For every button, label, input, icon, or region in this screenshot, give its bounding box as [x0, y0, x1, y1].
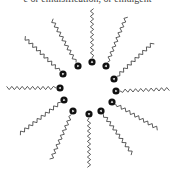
- micelle-diagram: [0, 0, 175, 171]
- hydrophobic-tail: [117, 43, 154, 76]
- hydrophobic-tail: [25, 36, 60, 71]
- hydrophobic-tail: [108, 17, 128, 62]
- hydrophobic-tail: [20, 102, 60, 135]
- hydrophobic-tail: [90, 9, 93, 58]
- hydrophobic-tail: [50, 115, 72, 159]
- heads-group: [56, 58, 119, 117]
- hydrophobic-tail: [7, 86, 56, 89]
- hydrophobic-tail: [116, 104, 158, 130]
- hydrophobic-tail: [87, 118, 90, 167]
- hydrophobic-tail: [103, 114, 132, 155]
- hydrophobic-tail: [52, 19, 76, 63]
- tails-group: [7, 9, 170, 168]
- hydrophobic-tail: [120, 88, 169, 93]
